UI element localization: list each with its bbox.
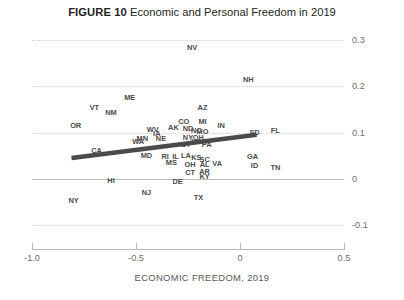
data-point-label: SD	[249, 130, 259, 137]
data-point-label: KY	[199, 173, 209, 180]
data-point-label: FL	[271, 127, 280, 134]
data-point-label: MD	[141, 152, 153, 159]
data-point-label: MI	[198, 119, 206, 126]
x-axis-title: ECONOMIC FREEDOM, 2019	[0, 272, 404, 283]
data-point-label: NJ	[142, 189, 151, 196]
data-point-label: MS	[166, 159, 177, 166]
x-axis-tick-label: -1.0	[24, 253, 40, 263]
data-point-label: ME	[124, 95, 135, 102]
data-point-label: WA	[132, 139, 144, 146]
x-axis-tick-label: 0.5	[338, 253, 351, 263]
data-point-label: IN	[218, 123, 225, 130]
data-point-label: NH	[243, 77, 254, 84]
data-point-label: AZ	[198, 105, 208, 112]
figure-container: FIGURE 10 Economic and Personal Freedom …	[0, 0, 404, 300]
y-axis-tick-label: -0.1	[352, 220, 368, 230]
data-point-label: VA	[212, 161, 222, 168]
data-point-label: GA	[247, 154, 258, 161]
data-point-label: CT	[185, 169, 195, 176]
data-point-label: OR	[70, 122, 81, 129]
x-axis-line	[32, 249, 344, 250]
data-point-label: NY	[68, 198, 78, 205]
data-point-label: ID	[251, 162, 258, 169]
plot-area: 0.30.20.10-0.1-1.0-0.500.5NVNHMEVTNMAZOR…	[0, 0, 404, 300]
y-axis-tick-label: 0.2	[352, 81, 365, 91]
data-point-label: UT	[181, 142, 191, 149]
data-point-label: IA	[153, 130, 160, 137]
y-axis-tick-label: 0	[352, 174, 357, 184]
data-point-label: LA	[181, 152, 191, 159]
data-point-label: HI	[107, 177, 114, 184]
data-point-label: PA	[202, 141, 212, 148]
x-axis-tick-mark	[32, 243, 33, 250]
y-gridline	[32, 86, 344, 88]
y-gridline	[32, 40, 344, 42]
x-axis-tick-label: -0.5	[128, 253, 144, 263]
x-axis-tick-mark	[344, 243, 345, 250]
data-point-label: VT	[90, 104, 99, 111]
x-axis-tick-mark	[136, 243, 137, 250]
data-point-label: TX	[194, 194, 203, 201]
data-point-label: NM	[105, 109, 117, 116]
data-point-label: CA	[91, 148, 102, 155]
data-point-label: AK	[168, 125, 179, 132]
data-point-label: TN	[270, 164, 280, 171]
y-axis-tick-label: 0.3	[352, 35, 365, 45]
x-axis-tick-label: 0	[237, 253, 242, 263]
y-gridline	[32, 179, 344, 180]
data-point-label: WI	[192, 138, 201, 145]
data-point-label: NV	[187, 44, 197, 51]
y-axis-tick-label: 0.1	[352, 128, 365, 138]
x-axis-tick-mark	[240, 243, 241, 250]
data-point-label: DE	[172, 178, 182, 185]
y-gridline	[32, 225, 344, 227]
